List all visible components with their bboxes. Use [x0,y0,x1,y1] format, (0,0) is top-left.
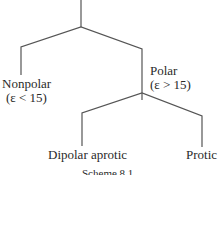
scheme-caption: Scheme 8.1 [82,167,133,175]
node-dipolar-aprotic-label: Dipolar aprotic [48,148,127,162]
polar-branches [82,93,202,147]
node-polar-condition: (ε > 15) [150,78,191,92]
node-protic-label: Protic [186,148,217,162]
node-polar-label: Polar [150,64,177,78]
node-nonpolar-label: Nonpolar [2,77,51,91]
node-nonpolar-condition: (ε < 15) [6,91,47,105]
